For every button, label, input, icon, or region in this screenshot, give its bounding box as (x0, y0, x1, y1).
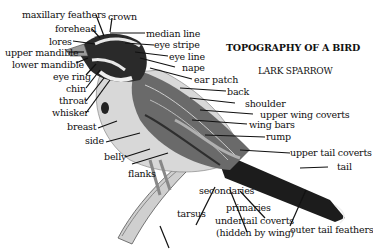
label-breast: breast (67, 122, 96, 132)
label-side: side (85, 136, 104, 146)
label-chin: chin (66, 84, 86, 94)
label-eye-ring: eye ring (53, 72, 91, 82)
label-nape: nape (182, 63, 205, 73)
diagram-title: TOPOGRAPHY OF A BIRD (226, 42, 360, 53)
label-shoulder: shoulder (245, 99, 286, 109)
label-hidden-by-wing: (hidden by wing) (216, 228, 294, 238)
label-lores: lores (49, 37, 72, 47)
label-belly: belly (104, 152, 126, 162)
label-crown: crown (108, 12, 137, 22)
label-lower-mandible: lower mandible (12, 60, 84, 70)
label-median-line: median line (146, 29, 200, 39)
label-flanks: flanks (128, 169, 156, 179)
label-wing-bars: wing bars (249, 120, 295, 130)
label-undertail-coverts: undertail coverts (215, 216, 294, 226)
label-upper-tail-coverts: upper tail coverts (290, 148, 372, 158)
label-upper-mandible: upper mandible (5, 48, 78, 58)
label-maxillary-feathers: maxillary feathers (22, 10, 106, 20)
label-ear-patch: ear patch (194, 75, 238, 85)
label-primaries: primaries (226, 203, 271, 213)
diagram-subtitle: LARK SPARROW (258, 66, 333, 76)
label-eye-stripe: eye stripe (154, 40, 200, 50)
label-secondaries: secondaries (199, 186, 254, 196)
label-forehead: forehead (55, 24, 96, 34)
label-tarsus: tarsus (177, 209, 206, 219)
label-whisker: whisker (52, 108, 89, 118)
label-throat: throat (59, 96, 87, 106)
label-tail: tail (337, 162, 352, 172)
label-eye-line: eye line (169, 52, 205, 62)
label-rump: rump (266, 132, 291, 142)
label-back: back (227, 87, 249, 97)
label-outer-tail-feathers: outer tail feathers (290, 225, 373, 235)
